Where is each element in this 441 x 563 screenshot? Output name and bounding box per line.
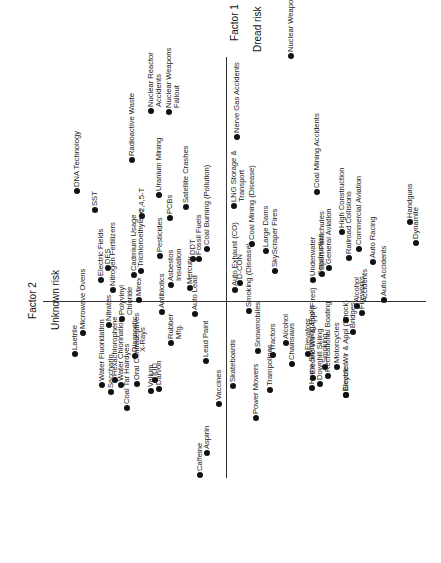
data-point-label: Asbestos Insulation [167, 248, 184, 281]
data-point-marker [343, 317, 349, 323]
data-point-label: Railroad Collisions [345, 191, 353, 254]
data-point-label: Nuclear Weapons (War) [287, 0, 295, 52]
risk-factor-chart: Factor 1 Dread risk Factor 2 Unknown ris… [0, 0, 441, 563]
data-point-marker [124, 405, 130, 411]
data-point-marker [108, 389, 114, 395]
data-point-marker [203, 358, 209, 364]
data-point-label: PCBs [166, 195, 174, 214]
data-point-marker [192, 311, 198, 317]
data-point-marker [148, 388, 154, 394]
data-point-marker [272, 268, 278, 274]
data-point-marker [288, 53, 294, 59]
data-point-marker [267, 387, 273, 393]
data-point-marker [216, 401, 222, 407]
data-point-marker [370, 259, 376, 265]
factor1-title: Factor 1 [229, 4, 240, 41]
data-point-marker [231, 203, 237, 209]
data-point-label: Chainsaws [288, 323, 296, 360]
data-point-marker [183, 204, 189, 210]
data-point-label: Oral Contraceptives [133, 313, 141, 380]
data-point-label: Vaccines [215, 370, 223, 400]
data-point-marker [148, 108, 154, 114]
data-point-label: Mirex [135, 277, 143, 296]
data-point-label: Polyvinyl Chloride [118, 285, 135, 315]
data-point-label: Nitrogen Fertilizers [109, 222, 117, 286]
data-point-label: Microwave Ovens [79, 269, 87, 329]
data-point-label: Skateboards [229, 339, 237, 382]
data-point-label: Auto Lead [191, 275, 199, 310]
data-point-label: Darvon [155, 361, 163, 385]
data-point-marker [310, 277, 316, 283]
data-point-label: SkyScraper Fires [271, 209, 279, 267]
data-point-marker [197, 472, 203, 478]
data-point-label: LNG Storage & Transport [230, 151, 247, 203]
data-point-marker [325, 373, 331, 379]
data-point-marker [319, 271, 325, 277]
data-point-marker [110, 287, 116, 293]
data-point-marker [166, 109, 172, 115]
data-point-label: Uranium Mining [155, 138, 163, 191]
data-point-marker [350, 329, 356, 335]
data-point-label: Smoking (Disease) [245, 243, 253, 307]
data-point-label: Auto Accidents [380, 246, 388, 296]
data-point-marker [289, 361, 295, 367]
data-point-marker [72, 351, 78, 357]
data-point-marker [98, 277, 104, 283]
data-point-marker [381, 297, 387, 303]
data-point-label: Fireworks [358, 276, 366, 309]
data-point-label: Tractors [269, 323, 277, 351]
data-point-label: Nerve Gas Accidents [233, 62, 241, 133]
data-point-marker [138, 268, 144, 274]
data-point-marker [157, 253, 163, 259]
data-point-label: Coal Tar Hairdyes [123, 344, 131, 404]
factor1-axis-label: Factor 1 Dread risk [217, 4, 275, 52]
data-point-marker [356, 246, 362, 252]
data-point-marker [204, 450, 210, 456]
data-point-label: Coal Mining Accidents [313, 113, 321, 188]
data-point-label: Bicycles [342, 363, 350, 391]
data-point-marker [204, 246, 210, 252]
data-point-label: Power Mowers [252, 364, 260, 414]
data-point-marker [99, 382, 105, 388]
factor2-axis-label: Factor 2 Unknown risk [15, 270, 73, 330]
data-point-marker [237, 280, 243, 286]
factor2-subtitle: Unknown risk [50, 270, 61, 330]
data-point-label: Snowmobiles [254, 302, 262, 347]
data-point-marker [168, 340, 174, 346]
data-point-marker [129, 157, 135, 163]
data-point-marker [74, 188, 80, 194]
data-point-label: Aspirin [203, 426, 211, 449]
factor1-subtitle: Dread risk [252, 6, 263, 52]
data-point-label: Lead Paint [202, 321, 210, 357]
data-point-marker [80, 330, 86, 336]
data-point-label: General Aviation [325, 208, 333, 264]
data-point-label: DNA Technology [73, 131, 81, 187]
data-point-label: Rubber Mfg. [167, 314, 184, 339]
data-point-marker [255, 348, 261, 354]
data-point-marker [136, 297, 142, 303]
data-point-label: Coal Mining (Disease) [248, 165, 256, 240]
data-point-marker [253, 415, 259, 421]
data-point-label: Commercial Aviation [355, 176, 363, 245]
data-point-marker [167, 215, 173, 221]
data-point-marker [230, 383, 236, 389]
data-point-marker [263, 248, 269, 254]
data-point-marker [92, 207, 98, 213]
data-point-label: Trichloroethylene [137, 209, 145, 267]
data-point-marker [168, 282, 174, 288]
data-point-marker [346, 255, 352, 261]
data-point-label: SST [91, 191, 99, 206]
factor2-title: Factor 2 [27, 282, 38, 319]
data-point-marker [196, 256, 202, 262]
data-point-label: Bridges [349, 302, 357, 328]
data-point-label: Saccharin [107, 354, 115, 388]
data-point-label: Nuclear Weapons Fallout [165, 48, 182, 108]
data-point-label: Radioactive Waste [128, 93, 136, 156]
data-point-marker [326, 265, 332, 271]
data-point-marker [156, 386, 162, 392]
data-point-label: Satellite Crashes [182, 146, 190, 203]
data-point-marker [343, 392, 349, 398]
data-point-marker [156, 192, 162, 198]
data-point-marker [159, 309, 165, 315]
data-point-marker [270, 352, 276, 358]
